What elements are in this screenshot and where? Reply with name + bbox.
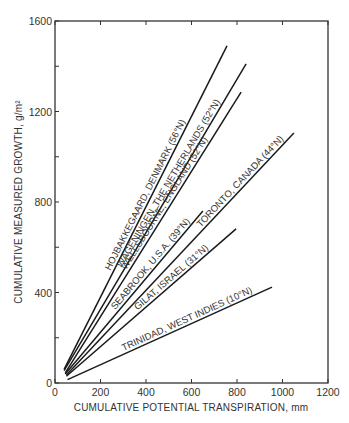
axis-ticks: 020040060080010001200040080012001600 xyxy=(29,15,340,398)
line-labels: HOJBAKKEGAARD, DENMARK (56°N)WAGENINGEN,… xyxy=(102,97,285,353)
plot-border xyxy=(55,21,328,383)
plot-frame xyxy=(55,21,328,383)
x-tick-label: 0 xyxy=(52,386,58,398)
x-tick-label: 400 xyxy=(137,386,155,398)
series-label: TORONTO, CANADA (44°N) xyxy=(194,133,285,229)
y-tick-label: 800 xyxy=(34,196,52,208)
y-tick-label: 0 xyxy=(46,377,52,389)
y-tick-label: 1200 xyxy=(29,106,53,118)
x-tick-label: 1200 xyxy=(316,386,340,398)
x-tick-label: 800 xyxy=(228,386,246,398)
data-lines xyxy=(64,46,294,380)
x-tick-label: 1000 xyxy=(271,386,295,398)
x-axis-label: CUMULATIVE POTENTIAL TRANSPIRATION, mm xyxy=(74,402,308,413)
chart: 020040060080010001200040080012001600 HOJ… xyxy=(0,0,349,423)
x-tick-label: 600 xyxy=(183,386,201,398)
y-axis-label: CUMULATIVE MEASURED GROWTH, g/m² xyxy=(13,100,24,304)
series-label: TRINIDAD, WEST INDIES (10°N) xyxy=(120,284,254,353)
y-tick-label: 1600 xyxy=(29,15,53,27)
x-tick-label: 200 xyxy=(92,386,110,398)
y-tick-label: 400 xyxy=(34,287,52,299)
series-line xyxy=(64,46,227,370)
